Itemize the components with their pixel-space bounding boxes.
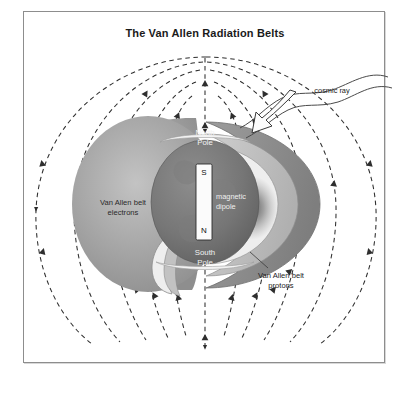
field-arrowhead-icon [330,180,338,187]
field-arrowhead-icon [174,111,183,119]
south-pole-label: South Pole [175,248,235,269]
magnetic-dipole-label: magnetic dipole [216,192,246,212]
dipole-n-pole-mark: N [197,226,211,235]
field-arrowhead-icon [150,291,159,300]
field-arrowhead-icon [202,334,209,340]
van-allen-protons-label: Van Allen belt protons [236,271,326,291]
north-pole-label: North Pole [175,128,235,149]
field-arrowhead-icon [260,89,269,98]
diagram-artwork [0,0,410,394]
field-arrowhead-icon [228,111,237,119]
field-arrowhead-icon [202,80,209,86]
field-arrowhead-icon [365,247,373,255]
cosmic-ray-arrow-icon [252,90,296,133]
field-arrowhead-icon [366,159,374,166]
field-arrowhead-icon [228,293,236,301]
field-arrowhead-icon [38,159,46,166]
dipole-s-pole-mark: S [197,168,211,177]
field-arrowhead-icon [39,247,47,255]
van-allen-electrons-label: Van Allen belt electrons [78,198,168,218]
field-arrowhead-icon [251,291,260,300]
cosmic-ray-label: cosmic ray [302,86,362,96]
van-allen-radiation-belts-figure: The Van Allen Radiation Belts [0,0,410,394]
field-arrowhead-icon [141,89,150,98]
